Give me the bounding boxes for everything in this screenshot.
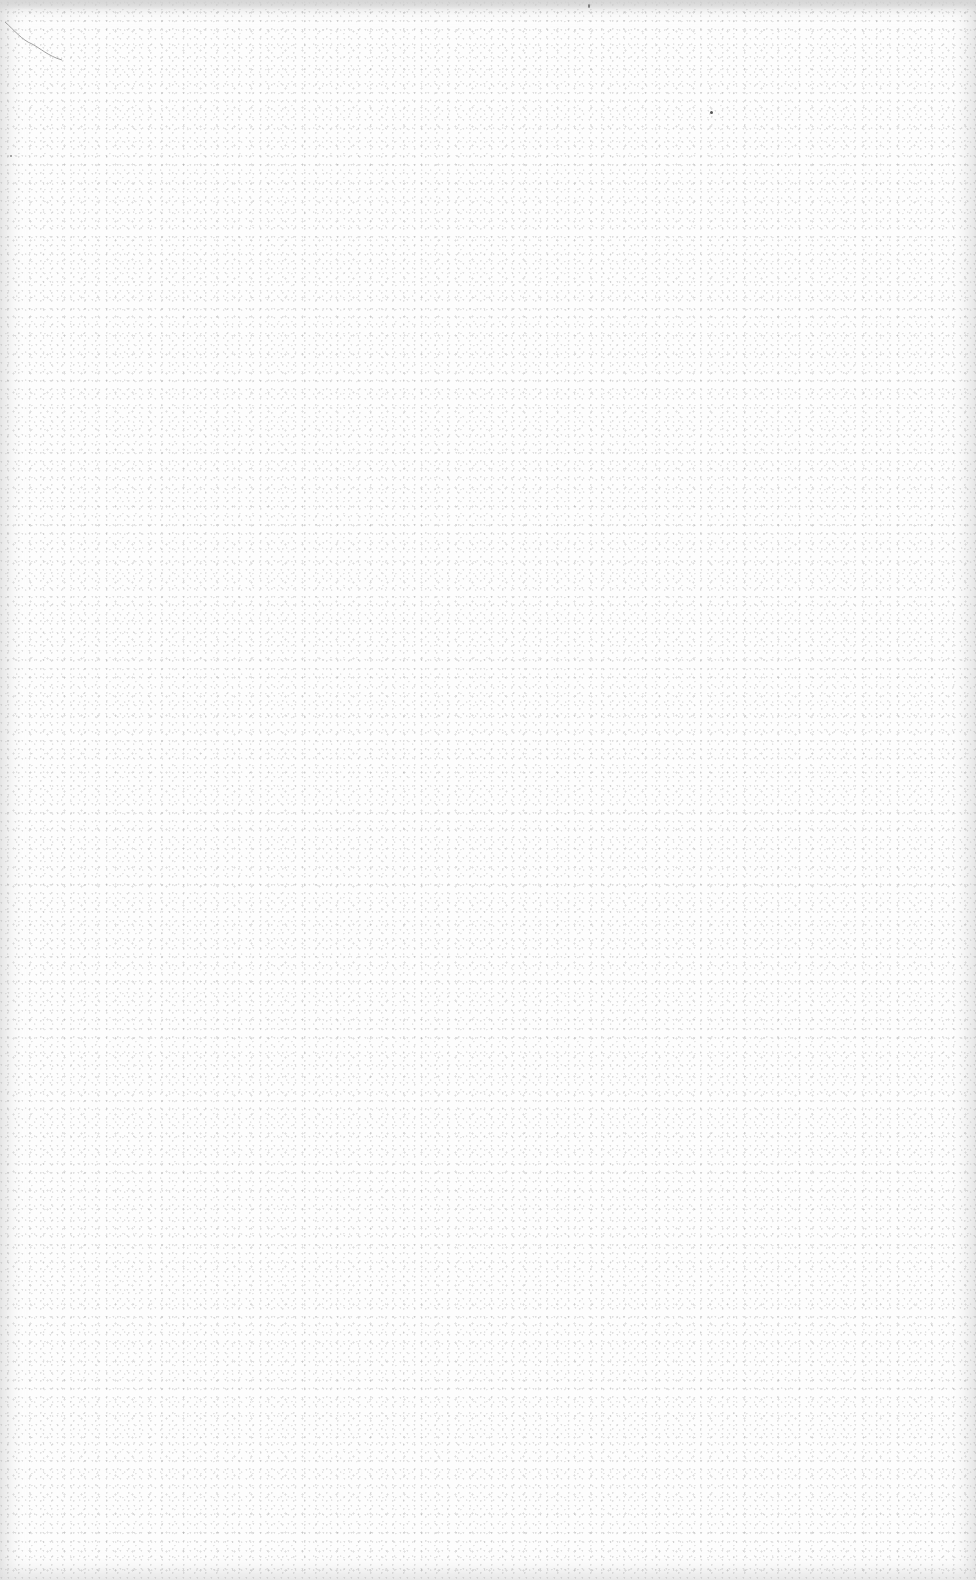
scan-edge-shadow xyxy=(0,0,976,10)
hair-fiber-mark xyxy=(0,0,80,70)
speck-dot xyxy=(588,4,590,8)
speck-dot xyxy=(710,111,713,114)
blank-page xyxy=(0,0,976,1580)
speck-dot xyxy=(10,155,12,157)
paper-texture-secondary xyxy=(0,0,976,1580)
